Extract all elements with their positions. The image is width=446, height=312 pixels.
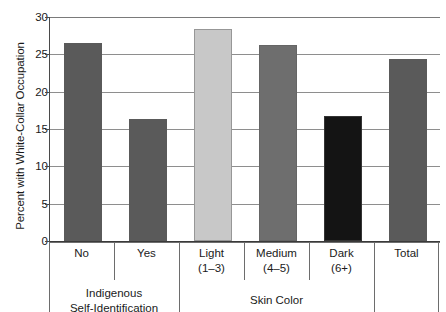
x-axis-group-divider: [374, 242, 375, 312]
x-axis-category-divider: [114, 242, 115, 280]
y-axis-tick: [45, 204, 50, 205]
bar: [194, 29, 232, 241]
bar-chart-figure: Percent with White-Collar Occupation 051…: [0, 0, 446, 312]
y-axis-tick-labels: 051015202530: [24, 0, 48, 312]
bar: [389, 59, 427, 241]
x-axis-category-name: Total: [394, 247, 418, 259]
gridline: [50, 166, 440, 167]
x-axis-group-label: Skin Color: [179, 293, 374, 308]
y-axis-tick: [45, 166, 50, 167]
plot-area: [50, 17, 440, 241]
x-axis-category-sublabel: (4–5): [244, 261, 309, 276]
bar: [324, 116, 362, 241]
gridline: [50, 92, 440, 93]
x-axis-category-sublabel: (6+): [309, 261, 374, 276]
x-axis-category-divider: [244, 242, 245, 280]
x-axis-category-name: Yes: [137, 247, 156, 259]
y-axis-tick: [45, 129, 50, 130]
x-axis-category-name: No: [74, 247, 89, 259]
bar: [64, 43, 102, 241]
x-axis-group-label-line: Self-Identification: [49, 301, 179, 312]
y-axis-tick: [45, 54, 50, 55]
y-axis-tick: [45, 92, 50, 93]
x-axis-category-sublabel: (1–3): [179, 261, 244, 276]
bar: [259, 45, 297, 241]
x-axis-band-edge: [438, 242, 439, 312]
gridline: [50, 204, 440, 205]
x-axis-label-band: NoYesLight(1–3)Medium(4–5)Dark(6+)TotalI…: [49, 242, 440, 312]
x-axis-group-label-line: Indigenous: [49, 286, 179, 301]
x-axis-group-label-line: Skin Color: [179, 293, 374, 308]
x-axis-category-label: Total: [374, 242, 439, 284]
x-axis-category-name: Light: [199, 247, 224, 259]
gridline: [50, 129, 440, 130]
x-axis-category-name: Medium: [256, 247, 297, 259]
x-axis-category-label: Dark(6+): [309, 242, 374, 284]
x-axis-category-label: Yes: [114, 242, 179, 284]
x-axis-category-divider: [309, 242, 310, 280]
gridline: [50, 54, 440, 55]
gridline: [50, 17, 440, 18]
y-axis-tick: [45, 17, 50, 18]
x-axis-group-label: IndigenousSelf-Identification: [49, 286, 179, 312]
x-axis-category-label: No: [49, 242, 114, 284]
x-axis-category-label: Medium(4–5): [244, 242, 309, 284]
x-axis-category-name: Dark: [329, 247, 353, 259]
bar: [129, 119, 167, 241]
x-axis-category-label: Light(1–3): [179, 242, 244, 284]
